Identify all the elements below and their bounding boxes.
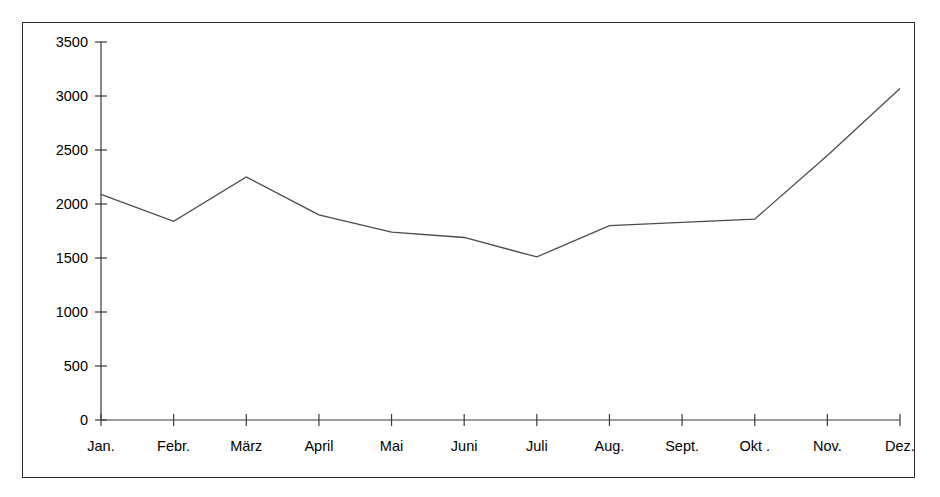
data-series-group bbox=[101, 88, 900, 256]
y-axis-tick-label: 500 bbox=[64, 358, 88, 374]
data-series-line bbox=[101, 88, 900, 256]
x-axis-tick-label: Mai bbox=[380, 438, 403, 454]
x-axis-tick-label: Febr. bbox=[157, 438, 190, 454]
x-axis-tick-label: Juni bbox=[451, 438, 478, 454]
y-axis-tick-label: 2000 bbox=[56, 196, 88, 212]
x-axis-tick-label: Aug. bbox=[595, 438, 625, 454]
x-axis-tick-label: Okt . bbox=[739, 438, 770, 454]
y-axis-tick-label: 2500 bbox=[56, 142, 88, 158]
y-axis-tick-label: 3500 bbox=[56, 34, 88, 50]
y-axis-tick-label: 3000 bbox=[56, 88, 88, 104]
x-axis-tick-label: Juli bbox=[526, 438, 548, 454]
x-axis-tick-label: April bbox=[304, 438, 333, 454]
chart-canvas bbox=[0, 0, 940, 497]
line-chart: 0500100015002000250030003500 Jan.Febr.Mä… bbox=[0, 0, 940, 497]
y-axis-tick-label: 0 bbox=[80, 412, 88, 428]
x-axis-tick-label: Dez. bbox=[885, 438, 915, 454]
x-axis-tick-label: Jan. bbox=[87, 438, 114, 454]
x-axis-tick-label: Nov. bbox=[813, 438, 842, 454]
y-axis-tick-label: 1500 bbox=[56, 250, 88, 266]
x-axis-tick-label: März bbox=[230, 438, 262, 454]
x-axis-tick-label: Sept. bbox=[665, 438, 699, 454]
chart-axes bbox=[101, 42, 900, 420]
y-axis-tick-label: 1000 bbox=[56, 304, 88, 320]
